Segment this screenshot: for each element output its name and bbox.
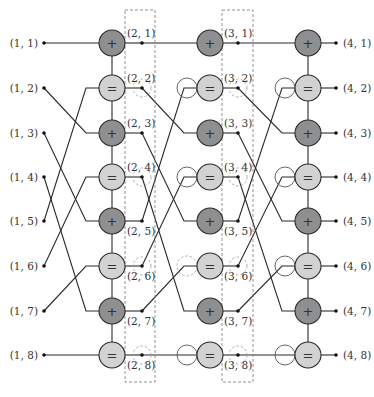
plus-symbol: + bbox=[107, 36, 118, 51]
wire-c1-c2 bbox=[44, 88, 99, 221]
terminal-dot-c1 bbox=[42, 353, 46, 357]
wire-c2-c3 bbox=[142, 88, 197, 221]
label-column2: (2, 3) bbox=[127, 117, 155, 129]
plus-symbol: + bbox=[205, 126, 216, 141]
label-column4: (4, 6) bbox=[343, 260, 371, 272]
wire-c1-c2 bbox=[44, 266, 99, 311]
terminal-dot-c2 bbox=[140, 219, 144, 223]
wire-c1-c2 bbox=[44, 88, 99, 133]
equal-symbol: = bbox=[303, 81, 314, 96]
wires bbox=[44, 43, 336, 355]
equal-symbol: = bbox=[107, 170, 118, 185]
plus-symbol: + bbox=[205, 36, 216, 51]
wire-c2-c3 bbox=[142, 177, 197, 311]
label-column1: (1, 6) bbox=[10, 260, 38, 272]
factor-graph-diagram: +=+=+=+=+=+=+=+=+=+=+=+= (1, 1)(2, 1)(3,… bbox=[0, 0, 374, 397]
label-column3: (3, 1) bbox=[224, 27, 252, 39]
terminal-dot-c1 bbox=[42, 175, 46, 179]
terminal-dot-c3 bbox=[236, 264, 240, 268]
equal-symbol: = bbox=[303, 259, 314, 274]
label-column2: (2, 6) bbox=[127, 270, 155, 282]
terminal-dot-c4 bbox=[334, 264, 338, 268]
terminal-dot-c1 bbox=[42, 41, 46, 45]
terminal-dot-c4 bbox=[334, 175, 338, 179]
plus-symbol: + bbox=[205, 214, 216, 229]
plus-symbol: + bbox=[107, 126, 118, 141]
terminal-dot-c2 bbox=[140, 131, 144, 135]
plus-symbol: + bbox=[303, 304, 314, 319]
terminal-dot-c4 bbox=[334, 41, 338, 45]
plus-symbol: + bbox=[303, 126, 314, 141]
label-column3: (3, 5) bbox=[224, 225, 252, 237]
terminal-dot-c1 bbox=[42, 131, 46, 135]
terminal-dot-c2 bbox=[140, 264, 144, 268]
terminal-dot-c1 bbox=[42, 264, 46, 268]
label-column3: (3, 4) bbox=[224, 161, 252, 173]
terminal-dot-c3 bbox=[236, 175, 240, 179]
label-column3: (3, 7) bbox=[224, 315, 252, 327]
plus-symbol: + bbox=[303, 214, 314, 229]
terminal-dot-c4 bbox=[334, 309, 338, 313]
equal-symbol: = bbox=[107, 348, 118, 363]
label-column1: (1, 4) bbox=[10, 171, 38, 183]
plus-symbol: + bbox=[205, 304, 216, 319]
terminal-dot-c1 bbox=[42, 219, 46, 223]
label-column4: (4, 3) bbox=[343, 127, 371, 139]
equal-symbol: = bbox=[205, 170, 216, 185]
equal-symbol: = bbox=[205, 259, 216, 274]
label-column4: (4, 4) bbox=[343, 171, 371, 183]
terminal-dot-c1 bbox=[42, 309, 46, 313]
label-column4: (4, 2) bbox=[343, 82, 371, 94]
terminal-dot-c2 bbox=[140, 309, 144, 313]
label-column4: (4, 8) bbox=[343, 349, 371, 361]
terminal-dot-c2 bbox=[140, 353, 144, 357]
label-column3: (3, 6) bbox=[224, 270, 252, 282]
plus-symbol: + bbox=[107, 214, 118, 229]
label-column4: (4, 7) bbox=[343, 305, 371, 317]
terminal-dot-c4 bbox=[334, 86, 338, 90]
label-column2: (2, 7) bbox=[127, 315, 155, 327]
label-column1: (1, 8) bbox=[10, 349, 38, 361]
equal-symbol: = bbox=[205, 81, 216, 96]
equal-symbol: = bbox=[303, 170, 314, 185]
label-column2: (2, 2) bbox=[127, 72, 155, 84]
terminal-dot-c4 bbox=[334, 219, 338, 223]
terminal-dot-c3 bbox=[236, 219, 240, 223]
terminal-dot-c2 bbox=[140, 41, 144, 45]
label-column1: (1, 3) bbox=[10, 127, 38, 139]
terminal-dot-c3 bbox=[236, 86, 240, 90]
label-column1: (1, 1) bbox=[10, 37, 38, 49]
terminal-dot-c3 bbox=[236, 41, 240, 45]
terminal-dot-c3 bbox=[236, 353, 240, 357]
label-column2: (2, 4) bbox=[127, 161, 155, 173]
wire-c1-c2 bbox=[44, 177, 99, 311]
plus-symbol: + bbox=[303, 36, 314, 51]
wire-c3-c4 bbox=[238, 88, 295, 221]
wire-c3-c4 bbox=[238, 177, 295, 311]
terminal-dot-c2 bbox=[140, 175, 144, 179]
equal-symbol: = bbox=[205, 348, 216, 363]
terminal-dot-c2 bbox=[140, 86, 144, 90]
label-column2: (2, 1) bbox=[127, 27, 155, 39]
label-column4: (4, 5) bbox=[343, 215, 371, 227]
label-column2: (2, 5) bbox=[127, 225, 155, 237]
plus-symbol: + bbox=[107, 304, 118, 319]
terminal-dot-c4 bbox=[334, 353, 338, 357]
label-column1: (1, 5) bbox=[10, 215, 38, 227]
label-column1: (1, 2) bbox=[10, 82, 38, 94]
equal-symbol: = bbox=[107, 259, 118, 274]
equal-symbol: = bbox=[303, 348, 314, 363]
label-column4: (4, 1) bbox=[343, 37, 371, 49]
label-column2: (2, 8) bbox=[127, 359, 155, 371]
label-column3: (3, 8) bbox=[224, 359, 252, 371]
terminal-dot-c4 bbox=[334, 131, 338, 135]
terminal-dot-c1 bbox=[42, 86, 46, 90]
terminal-dot-c3 bbox=[236, 309, 240, 313]
terminal-dot-c3 bbox=[236, 131, 240, 135]
label-column1: (1, 7) bbox=[10, 305, 38, 317]
label-column3: (3, 3) bbox=[224, 117, 252, 129]
label-column3: (3, 2) bbox=[224, 72, 252, 84]
equal-symbol: = bbox=[107, 81, 118, 96]
